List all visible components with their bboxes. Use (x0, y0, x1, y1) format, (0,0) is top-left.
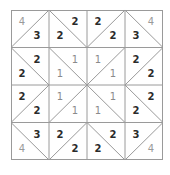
triangle-lower-clue: 1 (108, 69, 118, 79)
puzzle-board: 43222243221111222211112234222234 (11, 10, 163, 160)
triangle-upper-clue: 1 (70, 55, 80, 65)
cell-r1-c0[interactable]: 22 (11, 48, 49, 86)
cell-r2-c0[interactable]: 22 (11, 85, 49, 123)
triangle-upper-clue: 2 (131, 55, 141, 65)
cell-r0-c2[interactable]: 22 (87, 10, 125, 48)
triangle-lower-clue: 3 (131, 31, 141, 41)
triangle-upper-clue: 1 (93, 55, 103, 65)
triangle-upper-clue: 4 (17, 17, 27, 27)
triangle-lower-clue: 2 (70, 144, 80, 154)
triangle-lower-clue: 2 (93, 144, 103, 154)
cell-r1-c2[interactable]: 11 (87, 48, 125, 86)
triangle-lower-clue: 2 (32, 106, 42, 116)
triangle-upper-clue: 3 (32, 130, 42, 140)
cell-r0-c3[interactable]: 43 (125, 10, 163, 48)
cell-r1-c1[interactable]: 11 (49, 48, 87, 86)
triangle-upper-clue: 2 (93, 17, 103, 27)
cell-r0-c0[interactable]: 43 (11, 10, 49, 48)
cell-r0-c1[interactable]: 22 (49, 10, 87, 48)
triangle-upper-clue: 4 (146, 17, 156, 27)
triangle-upper-clue: 2 (70, 17, 80, 27)
triangle-upper-clue: 3 (131, 130, 141, 140)
triangle-lower-clue: 4 (146, 144, 156, 154)
triangle-lower-clue: 3 (32, 31, 42, 41)
triangle-upper-clue: 1 (55, 92, 65, 102)
triangle-upper-clue: 1 (108, 92, 118, 102)
cell-r1-c3[interactable]: 22 (125, 48, 163, 86)
triangle-upper-clue: 2 (108, 130, 118, 140)
triangle-lower-clue: 1 (93, 106, 103, 116)
triangle-upper-clue: 2 (32, 55, 42, 65)
triangle-lower-clue: 2 (108, 31, 118, 41)
triangle-lower-clue: 2 (146, 69, 156, 79)
triangle-upper-clue: 2 (55, 130, 65, 140)
cell-r3-c3[interactable]: 34 (125, 123, 163, 161)
cell-r3-c0[interactable]: 34 (11, 123, 49, 161)
triangle-lower-clue: 2 (131, 106, 141, 116)
cell-r3-c1[interactable]: 22 (49, 123, 87, 161)
triangle-lower-clue: 2 (17, 69, 27, 79)
triangle-upper-clue: 2 (146, 92, 156, 102)
triangle-upper-clue: 2 (17, 92, 27, 102)
triangle-lower-clue: 4 (17, 144, 27, 154)
cell-r2-c3[interactable]: 22 (125, 85, 163, 123)
cell-r3-c2[interactable]: 22 (87, 123, 125, 161)
cell-r2-c2[interactable]: 11 (87, 85, 125, 123)
cell-r2-c1[interactable]: 11 (49, 85, 87, 123)
triangle-lower-clue: 1 (70, 106, 80, 116)
triangle-lower-clue: 1 (55, 69, 65, 79)
triangle-lower-clue: 2 (55, 31, 65, 41)
